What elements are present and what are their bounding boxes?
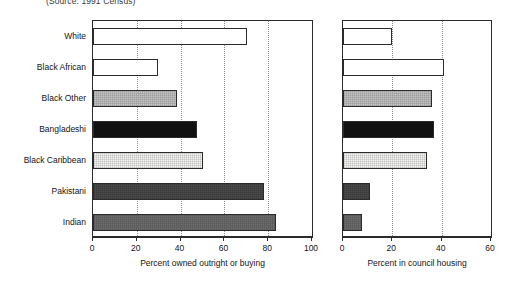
bar[interactable] [343, 59, 444, 76]
bar-row [343, 52, 491, 83]
bar-row [93, 21, 312, 52]
x-axis-line-owned [92, 237, 313, 238]
bar[interactable] [93, 214, 276, 231]
bar-row [93, 114, 312, 145]
bar[interactable] [93, 59, 158, 76]
x-axis-tick [223, 237, 224, 241]
x-axis-tick [267, 237, 268, 241]
x-axis-tick-label: 0 [90, 243, 95, 253]
bar[interactable] [93, 90, 177, 107]
x-axis-tick-label: 60 [485, 243, 494, 253]
x-axis-tick-label: 20 [131, 243, 140, 253]
bar-row [343, 21, 491, 52]
bar-row [93, 83, 312, 114]
plot-area-council [342, 20, 492, 237]
bar-row [93, 52, 312, 83]
x-axis-owned: 020406080100 [92, 237, 313, 253]
bar-row [93, 207, 312, 238]
bar-row [93, 145, 312, 176]
x-axis-council: 0204060 [342, 237, 492, 253]
bar[interactable] [93, 121, 197, 138]
bar[interactable] [93, 152, 203, 169]
bar-row [343, 83, 491, 114]
category-label: Black Other [42, 92, 86, 104]
x-axis-tick [180, 237, 181, 241]
x-axis-tick-label: 40 [436, 243, 445, 253]
bar[interactable] [343, 90, 432, 107]
bar-row [343, 176, 491, 207]
x-axis-title-owned: Percent owned outright or buying [92, 258, 313, 268]
bar[interactable] [343, 183, 370, 200]
x-axis-tick-label: 0 [340, 243, 345, 253]
bar-row [93, 176, 312, 207]
bar[interactable] [343, 152, 427, 169]
bar-row [343, 114, 491, 145]
x-axis-tick [490, 237, 491, 241]
x-axis-title-council: Percent in council housing [342, 258, 492, 268]
bar[interactable] [343, 121, 434, 138]
chart-figure: (Source: 1991 Census) WhiteBlack African… [0, 0, 515, 291]
x-axis-tick-label: 40 [175, 243, 184, 253]
category-label: Bangladeshi [39, 123, 86, 135]
bar-row [343, 207, 491, 238]
panel-council-housing [342, 20, 492, 237]
x-axis-tick-label: 20 [387, 243, 396, 253]
x-axis-tick [311, 237, 312, 241]
bar[interactable] [343, 28, 392, 45]
bar-row [343, 145, 491, 176]
x-axis-tick-label: 80 [262, 243, 271, 253]
x-axis-tick [136, 237, 137, 241]
bar[interactable] [343, 214, 362, 231]
x-axis-line-council [342, 237, 492, 238]
x-axis-tick [441, 237, 442, 241]
category-label: Indian [63, 216, 86, 228]
x-axis-tick [391, 237, 392, 241]
source-note: (Source: 1991 Census) [46, 0, 136, 6]
x-axis-tick-label: 60 [219, 243, 228, 253]
category-label: Black Caribbean [24, 154, 86, 166]
category-label: Black African [37, 61, 86, 73]
plot-area-owned [92, 20, 313, 237]
x-axis-tick-label: 100 [304, 243, 318, 253]
x-axis-tick [342, 237, 343, 241]
category-axis: WhiteBlack AfricanBlack OtherBangladeshi… [0, 20, 90, 237]
bar[interactable] [93, 28, 247, 45]
category-label: Pakistani [52, 185, 87, 197]
x-axis-tick [92, 237, 93, 241]
bar[interactable] [93, 183, 264, 200]
panel-owned-outright-or-buying [92, 20, 313, 237]
category-label: White [64, 30, 86, 42]
